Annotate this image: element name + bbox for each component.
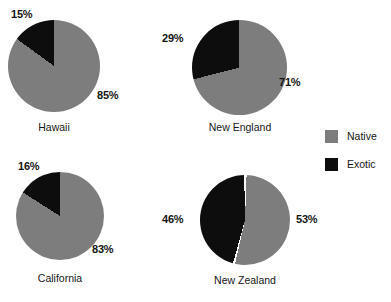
pie-value-label-new-england-native: 71% [279,76,300,88]
pie-chart-new-zealand: 46% 53% New Zealand [160,152,320,302]
pie-value-label-california-exotic: 16% [18,160,39,172]
pie-caption-new-england: New England [180,121,300,133]
pie-value-label-new-zealand-native: 53% [296,213,317,225]
native-swatch-icon [325,130,338,143]
pie-value-label-hawaii-native: 85% [97,89,118,101]
pie-caption-hawaii: Hawaii [4,121,104,133]
exotic-swatch-icon [325,158,338,171]
pie-chart-hawaii: 15% 85% Hawaii [0,0,140,140]
pie-value-label-california-native: 83% [92,243,113,255]
legend-item-exotic: Exotic [325,156,389,184]
pie-value-label-hawaii-exotic: 15% [11,8,32,20]
pie-caption-california: California [10,272,110,284]
pie-chart-new-england: 29% 71% New England [160,0,320,140]
pie-value-label-new-england-exotic: 29% [162,32,183,44]
pie-slices-new-zealand [200,175,290,265]
pie-chart-california: 16% 83% California [0,152,140,302]
legend-label-native: Native [347,129,377,143]
pie-chart-figure: 15% 85% Hawaii 29% 71% New England 16% 8… [0,0,391,302]
pie-slices-new-england [192,20,287,115]
legend-item-native: Native [325,128,389,156]
pie-slices-hawaii [8,20,100,112]
legend-label-exotic: Exotic [347,157,376,171]
pie-caption-new-zealand: New Zealand [185,274,305,286]
chart-legend: Native Exotic [325,128,389,184]
pie-value-label-new-zealand-exotic: 46% [162,213,183,225]
pie-slices-california [16,172,104,260]
